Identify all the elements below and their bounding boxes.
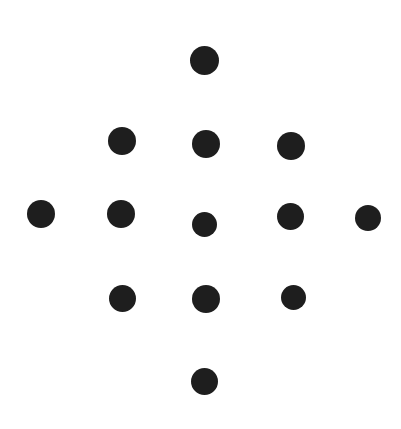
pattern-dot xyxy=(108,127,136,155)
pattern-dot xyxy=(281,285,306,310)
pattern-dot xyxy=(192,285,220,313)
pattern-dot xyxy=(27,200,55,228)
pattern-dot xyxy=(355,205,381,231)
pattern-dot xyxy=(277,203,304,230)
pattern-dot xyxy=(190,46,219,75)
pattern-dot xyxy=(192,212,217,237)
pattern-dot xyxy=(109,285,136,312)
pattern-dot xyxy=(277,132,305,160)
dot-pattern-canvas xyxy=(0,0,401,429)
pattern-dot xyxy=(191,368,218,395)
pattern-dot xyxy=(192,130,220,158)
pattern-dot xyxy=(107,200,135,228)
